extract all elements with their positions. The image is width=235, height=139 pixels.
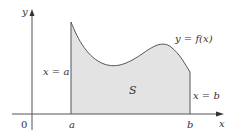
x-axis-label: x bbox=[219, 118, 225, 129]
origin-label: 0 bbox=[21, 119, 27, 130]
right-bound-label: x = b bbox=[193, 90, 220, 101]
curve-label: y = f(x) bbox=[174, 33, 213, 44]
region-s-label: S bbox=[129, 84, 137, 97]
x-axis-arrow-icon bbox=[216, 112, 224, 117]
y-axis-label: y bbox=[21, 6, 28, 17]
left-bound-label: x = a bbox=[43, 66, 69, 77]
a-tick-label: a bbox=[69, 119, 75, 130]
b-tick-label: b bbox=[187, 119, 193, 130]
area-diagram: y x 0 a b y = f(x) x = a x = b S bbox=[0, 0, 235, 139]
region-s-fill bbox=[71, 22, 190, 114]
y-axis-arrow-icon bbox=[30, 9, 35, 16]
